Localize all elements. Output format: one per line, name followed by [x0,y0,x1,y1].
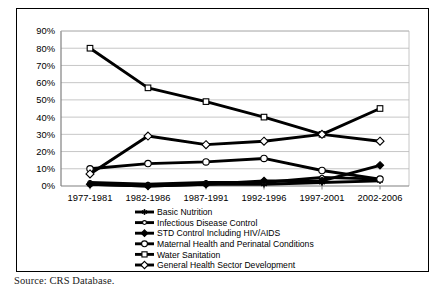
y-axis-tick-label: 50% [36,94,55,105]
y-axis-tick-label: 10% [36,163,55,174]
x-axis-tick-label: 1987-1991 [184,192,229,203]
legend-item[interactable]: STD Control Including HIV/AIDS [135,228,280,238]
marker-open-circle [142,241,148,247]
source-note: Source: CRS Database. [14,275,114,286]
marker-open-diamond [260,137,268,145]
marker-open-square [377,106,383,112]
legend-item-label: General Health Sector Development [157,260,296,270]
x-axis-tick-label: 1997-2001 [300,192,345,203]
y-axis-tick-label: 70% [36,60,55,71]
marker-open-square [261,114,267,120]
marker-open-square [203,99,209,105]
marker-open-diamond [141,261,148,268]
x-axis-tick-label: 2002-2006 [358,192,403,203]
marker-open-diamond [376,137,384,145]
legend-item-label: Water Sanitation [157,250,220,260]
marker-open-diamond [202,141,210,149]
series-line [90,134,380,174]
marker-open-circle [261,155,267,161]
series-general-health-sector-development [86,130,384,178]
legend-item[interactable]: Basic Nutrition [135,207,213,217]
marker-open-circle [319,167,325,173]
legend-item-label: STD Control Including HIV/AIDS [157,228,280,238]
y-axis-tick-label: 30% [36,129,55,140]
y-axis-tick-label: 0% [41,180,55,191]
marker-open-square [145,85,151,91]
gridlines [61,31,409,169]
series-line [90,48,380,134]
marker-open-circle [377,176,383,182]
chart-border-box: 0%10%20%30%40%50%60%70%80%90%1977-198119… [16,8,429,272]
series-water-sanitation [87,45,383,137]
marker-open-circle [203,159,209,165]
legend-item[interactable]: Infectious Disease Control [135,218,257,228]
legend-item-label: Infectious Disease Control [157,218,257,228]
marker-open-square [87,45,93,51]
line-chart-plot: 0%10%20%30%40%50%60%70%80%90%1977-198119… [17,9,427,270]
marker-open-square [142,252,147,257]
x-axis-tick-label: 1992-1996 [242,192,287,203]
legend-item-label: Basic Nutrition [157,207,213,217]
x-axis-tick-label: 1982-1986 [126,192,171,203]
chart-legend: Basic NutritionInfectious Disease Contro… [135,207,314,270]
y-axis-tick-label: 20% [36,146,55,157]
y-axis-tick-label: 60% [36,77,55,88]
chart-figure: 0%10%20%30%40%50%60%70%80%90%1977-198119… [0,0,447,295]
legend-item[interactable]: Water Sanitation [135,250,220,260]
marker-open-circle-small [143,221,147,225]
y-axis-tick-label: 80% [36,43,55,54]
marker-filled-diamond [376,162,383,169]
x-axis-tick-label: 1977-1981 [68,192,113,203]
legend-item[interactable]: General Health Sector Development [135,260,296,270]
y-axis-tick-label: 90% [36,25,55,36]
marker-filled-diamond [141,230,148,237]
legend-item-label: Maternal Health and Perinatal Conditions [157,239,314,249]
legend-item[interactable]: Maternal Health and Perinatal Conditions [135,239,314,249]
marker-open-circle [145,160,151,166]
y-axis-tick-label: 40% [36,112,55,123]
